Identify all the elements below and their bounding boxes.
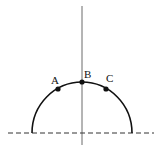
semicircle-diagram: A B C: [0, 0, 156, 153]
point-a: [55, 86, 60, 91]
label-c: C: [106, 72, 113, 84]
point-b: [79, 79, 84, 84]
label-b: B: [84, 68, 91, 80]
point-c: [103, 86, 108, 91]
label-a: A: [51, 74, 59, 86]
